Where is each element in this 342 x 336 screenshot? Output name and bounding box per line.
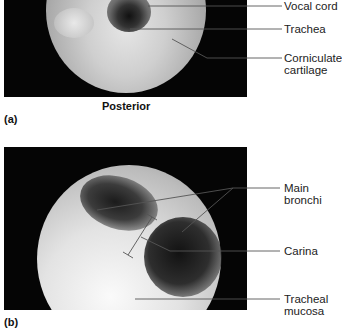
label-corniculate-line1: Corniculate	[284, 52, 342, 65]
bronchoscope-photo-b	[4, 147, 247, 310]
panel-tag-a: (a)	[4, 113, 17, 125]
label-carina: Carina	[284, 245, 318, 258]
label-vocal-cord: Vocal cord	[284, 0, 338, 13]
label-main-bronchi-line2: bronchi	[284, 194, 322, 207]
laryngoscope-photo-a	[4, 0, 247, 97]
label-main-bronchi-line1: Main	[284, 182, 309, 195]
right-main-bronchus	[144, 217, 222, 297]
laryngeal-fold	[54, 8, 94, 38]
label-corniculate-line2: cartilage	[284, 64, 327, 77]
panel-tag-b: (b)	[4, 316, 18, 328]
label-trachea: Trachea	[284, 23, 326, 36]
label-tracheal-mucosa-line2: mucosa	[284, 305, 324, 318]
label-tracheal-mucosa-line1: Tracheal	[284, 293, 328, 306]
caption-posterior: Posterior	[102, 100, 150, 112]
